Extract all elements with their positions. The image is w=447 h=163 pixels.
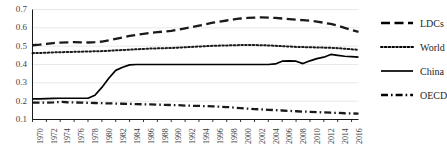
y-tick-label: 0.7: [3, 4, 27, 14]
x-tick-label: 2016: [355, 128, 364, 144]
legend-swatch-dashdot: [380, 90, 414, 100]
x-tick-label: 1998: [230, 128, 239, 144]
y-tick-label: 0.2: [3, 96, 27, 106]
x-tick-label: 1978: [91, 128, 100, 144]
x-tick-label: 1994: [202, 128, 211, 144]
x-tick-label: 1990: [174, 128, 183, 144]
y-tick-label: 0.5: [3, 41, 27, 51]
x-tick-label: 1974: [63, 128, 72, 144]
legend-swatch-dashed: [380, 18, 414, 28]
x-tick-label: 1996: [216, 128, 225, 144]
legend-label: World: [420, 42, 445, 53]
data-series-group: [33, 17, 359, 113]
x-tick-label: 1980: [105, 128, 114, 144]
x-tick-label: 2000: [244, 128, 253, 144]
x-tick-label: 2006: [285, 128, 294, 144]
x-tick-label: 1970: [36, 128, 45, 144]
series-line-oecd: [33, 102, 359, 114]
x-tick-label: 1992: [188, 128, 197, 144]
series-line-ldcs: [33, 17, 359, 45]
legend-item-oecd[interactable]: OECD: [380, 89, 447, 101]
legend-swatch-dotted: [380, 42, 414, 52]
x-tick-label: 2012: [327, 128, 336, 144]
x-tick-label: 1972: [50, 128, 59, 144]
x-tick-label: 2010: [313, 128, 322, 144]
legend-label: LDCs: [420, 18, 444, 29]
legend-item-ldcs[interactable]: LDCs: [380, 17, 444, 29]
legend-label: OECD: [420, 90, 447, 101]
x-tick-label: 2004: [272, 128, 281, 144]
x-tick-label: 1984: [133, 128, 142, 144]
legend-label: China: [420, 66, 444, 77]
legend-swatch-solid: [380, 66, 414, 76]
x-tick-label: 2002: [258, 128, 267, 144]
x-tick-label: 1976: [77, 128, 86, 144]
series-line-china: [33, 54, 359, 99]
x-tick-label: 2008: [299, 128, 308, 144]
x-tick-label: 2014: [341, 128, 350, 144]
y-tick-label: 0.6: [3, 22, 27, 32]
y-tick-label: 0.1: [3, 114, 27, 124]
y-tick-label: 0.4: [3, 59, 27, 69]
x-tick-label: 1988: [161, 128, 170, 144]
y-tick-label: 0.3: [3, 77, 27, 87]
legend-item-world[interactable]: World: [380, 41, 445, 53]
legend-item-china[interactable]: China: [380, 65, 444, 77]
x-tick-label: 1986: [147, 128, 156, 144]
x-tick-label: 1982: [119, 128, 128, 144]
